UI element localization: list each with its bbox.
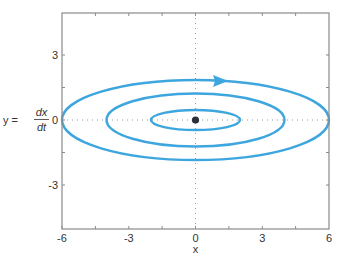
fixed-point xyxy=(192,116,199,123)
y-tick-label: 0 xyxy=(52,114,58,126)
x-axis-label: x xyxy=(193,243,199,255)
x-tick-label: -6 xyxy=(57,232,67,244)
y-axis-label-prefix: y = xyxy=(3,114,18,126)
phase-portrait: -6 -3 0 3 6 3 0 -3 x y = dx dt xyxy=(0,0,342,261)
y-tick-label: -3 xyxy=(48,179,58,191)
y-axis-label-denominator: dt xyxy=(37,121,47,133)
x-tick-label: 3 xyxy=(259,232,265,244)
y-axis-label-numerator: dx xyxy=(36,106,48,118)
x-ticks xyxy=(62,13,296,229)
x-tick-label: -3 xyxy=(124,232,134,244)
x-tick-label: 6 xyxy=(326,232,332,244)
direction-arrow-icon xyxy=(213,75,228,87)
y-tick-label: 3 xyxy=(52,49,58,61)
